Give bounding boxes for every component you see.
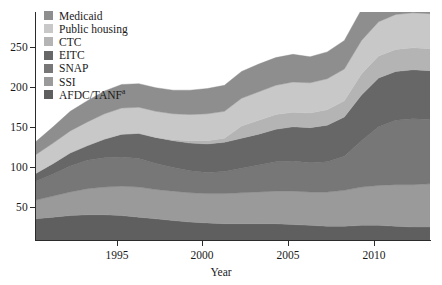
legend-footnote-marker: a [122, 87, 125, 96]
chart-legend: MedicaidPublic housingCTCEITCSNAPSSIAFDC… [44, 9, 128, 101]
x-axis-title: Year [0, 266, 442, 278]
legend-item: EITC [44, 49, 128, 62]
chart-figure: 250 200 150 100 50 1995 2000 2005 2010 Y… [0, 0, 442, 285]
legend-swatch-icon [44, 37, 53, 46]
x-tick-mark-2000 [202, 241, 203, 246]
x-tick-label-1995: 1995 [95, 249, 139, 261]
legend-swatch-icon [44, 77, 53, 86]
legend-swatch-icon [44, 11, 53, 20]
legend-item-label: Public housing [59, 23, 128, 35]
x-tick-mark-1995 [117, 241, 118, 246]
x-tick-mark-2010 [374, 241, 375, 246]
x-tick-mark-2005 [288, 241, 289, 246]
x-tick-label-2000: 2000 [180, 249, 224, 261]
legend-item-label: CTC [59, 36, 81, 48]
legend-swatch-icon [44, 64, 53, 73]
y-axis-labels: 250 200 150 100 50 [0, 0, 28, 285]
legend-item-label: AFDC/TANFa [59, 89, 125, 101]
legend-item: AFDC/TANFa [44, 88, 128, 101]
y-tick-label-150: 150 [0, 122, 28, 134]
legend-swatch-icon [44, 51, 53, 60]
legend-item: SSI [44, 75, 128, 88]
legend-swatch-icon [44, 24, 53, 33]
legend-item: CTC [44, 35, 128, 48]
legend-item-label: SNAP [59, 62, 88, 74]
y-tick-label-50: 50 [0, 202, 28, 214]
x-tick-label-2010: 2010 [352, 249, 396, 261]
legend-item: Public housing [44, 22, 128, 35]
y-tick-label-100: 100 [0, 162, 28, 174]
y-tick-label-200: 200 [0, 82, 28, 94]
legend-item: SNAP [44, 62, 128, 75]
x-axis-line [35, 240, 431, 241]
legend-item: Medicaid [44, 9, 128, 22]
legend-swatch-icon [44, 90, 53, 99]
legend-item-label: EITC [59, 49, 85, 61]
y-tick-label-250: 250 [0, 42, 28, 54]
legend-item-label: Medicaid [59, 10, 102, 22]
x-tick-label-2005: 2005 [266, 249, 310, 261]
legend-item-label: SSI [59, 76, 76, 88]
